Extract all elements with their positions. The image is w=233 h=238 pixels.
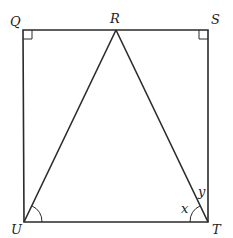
label-r: R (109, 11, 120, 26)
label-t: T (212, 222, 222, 237)
label-q: Q (10, 14, 21, 29)
angle-label-y: y (197, 184, 206, 199)
segment-ur (24, 30, 116, 222)
label-s: S (211, 12, 220, 27)
label-u: U (11, 222, 23, 237)
right-angle-mark-q (23, 30, 32, 39)
segment-rt (116, 30, 208, 222)
rectangle-qstu (23, 30, 208, 222)
angle-label-x: x (181, 201, 189, 216)
angle-arc-u (32, 206, 42, 222)
geometry-diagram: Q R S U T x y (0, 0, 233, 238)
angle-arc-t (190, 206, 200, 222)
right-angle-mark-s (199, 30, 208, 39)
